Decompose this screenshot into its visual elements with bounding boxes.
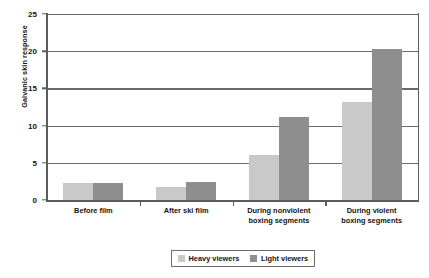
bar-light-viewers	[93, 183, 123, 200]
y-tick-label: 25	[11, 10, 37, 19]
x-category-label: After ski film	[140, 206, 233, 216]
gridline	[47, 88, 418, 89]
x-category-label: During violentboxing segments	[325, 206, 418, 225]
legend-entry: Heavy viewers	[178, 254, 239, 263]
legend-label: Light viewers	[261, 254, 308, 263]
y-axis-title: Galvanic skin response	[20, 0, 29, 137]
gridline	[47, 14, 418, 15]
x-category-label-line: boxing segments	[325, 216, 418, 226]
y-axis-line	[46, 13, 48, 201]
bar-heavy-viewers	[156, 187, 186, 200]
gridline	[47, 51, 418, 52]
y-tick-label: 10	[11, 121, 37, 130]
x-category-label-line: After ski film	[140, 206, 233, 216]
x-category-label-line: During violent	[325, 206, 418, 216]
legend-swatch-icon	[178, 255, 185, 262]
legend-label: Heavy viewers	[189, 254, 240, 263]
plot-right-border	[418, 13, 419, 201]
y-tick-label: 20	[11, 47, 37, 56]
legend-entry: Light viewers	[250, 254, 308, 263]
chart-figure: Galvanic skin response 0510152025 Before…	[0, 0, 429, 278]
bar-light-viewers	[186, 182, 216, 200]
x-category-label: During nonviolentboxing segments	[233, 206, 326, 225]
y-tick-label: 5	[11, 158, 37, 167]
bar-heavy-viewers	[249, 155, 279, 200]
y-tick-label: 15	[11, 84, 37, 93]
y-tick-label: 0	[11, 196, 37, 205]
x-category-label-line: Before film	[47, 206, 140, 216]
legend-swatch-icon	[250, 255, 257, 262]
x-category-label-line: boxing segments	[233, 216, 326, 226]
bar-light-viewers	[372, 49, 402, 200]
bar-light-viewers	[279, 117, 309, 200]
x-category-label-line: During nonviolent	[233, 206, 326, 216]
bar-heavy-viewers	[342, 102, 372, 200]
x-category-label: Before film	[47, 206, 140, 216]
plot-area: 0510152025	[47, 14, 418, 200]
x-axis-line	[46, 200, 419, 202]
chart-legend: Heavy viewersLight viewers	[171, 250, 315, 267]
bar-heavy-viewers	[63, 183, 93, 200]
